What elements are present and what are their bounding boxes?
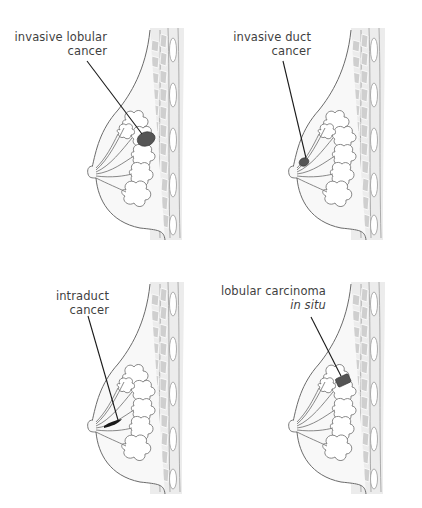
- label-line-italic: in situ: [196, 298, 326, 312]
- label-intraduct-cancer: intraduct cancer: [9, 289, 109, 317]
- label-line-1: intraduct: [9, 289, 109, 303]
- panel-invasive-lobular-cancer: invasive lobular cancer: [0, 0, 211, 254]
- label-line-2: cancer: [9, 303, 109, 317]
- label-invasive-duct-cancer: invasive duct cancer: [201, 30, 311, 58]
- panel-invasive-duct-cancer: invasive duct cancer: [211, 0, 422, 254]
- label-lobular-carcinoma-in-situ: lobular carcinoma in situ: [196, 284, 326, 312]
- label-line-2: cancer: [201, 44, 311, 58]
- panel-intraduct-cancer: intraduct cancer: [0, 254, 211, 508]
- label-line-2: cancer: [0, 44, 107, 58]
- label-line-1: invasive lobular: [0, 30, 107, 44]
- label-line-1: invasive duct: [201, 30, 311, 44]
- pointer-line: [283, 61, 306, 158]
- panel-lobular-carcinoma-in-situ: lobular carcinoma in situ: [211, 254, 422, 508]
- label-invasive-lobular-cancer: invasive lobular cancer: [0, 30, 107, 58]
- label-line-1: lobular carcinoma: [196, 284, 326, 298]
